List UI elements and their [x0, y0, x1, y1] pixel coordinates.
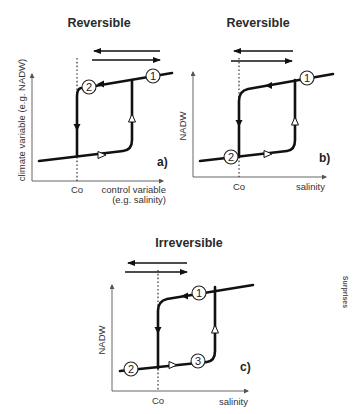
- hysteresis-diagram: Reversible 1 2 a) Co control variable (e…: [0, 0, 356, 414]
- state-2-label: 2: [128, 363, 134, 375]
- state-2-label: 2: [228, 151, 234, 163]
- panel-b-label: b): [319, 151, 330, 165]
- y-axis-label: NADW: [177, 111, 188, 140]
- panel-a: Reversible 1 2 a) Co control variable (e…: [16, 16, 172, 205]
- down-flow-marker-icon: [74, 124, 81, 131]
- panel-b-title: Reversible: [226, 16, 289, 30]
- right-flow-marker-icon: [264, 151, 272, 158]
- state-2-label: 2: [86, 81, 92, 93]
- down-flow-marker-icon: [236, 120, 243, 127]
- state-1-label: 1: [150, 70, 156, 82]
- upper-branch-and-collapse-curve: [158, 285, 253, 368]
- down-flow-marker-icon: [155, 327, 162, 334]
- panel-c: Irreversible 1 2 3 c) Co salinity NADW: [96, 236, 253, 407]
- y-axis-label: NADW: [96, 325, 107, 354]
- state-1-label: 1: [304, 72, 310, 84]
- left-flow-marker-icon: [181, 293, 188, 300]
- panel-c-title: Irreversible: [155, 236, 222, 250]
- state-1-label: 1: [196, 287, 202, 299]
- threshold-label: Co: [233, 181, 245, 192]
- x-axis-label: salinity: [296, 181, 325, 192]
- upper-branch-and-collapse-curve: [239, 74, 333, 157]
- collapse-curve: [77, 88, 81, 156]
- threshold-label: Co: [71, 184, 83, 195]
- lower-branch-curve: [200, 80, 295, 161]
- x-axis-label: salinity: [219, 396, 248, 407]
- up-flow-marker-icon: [212, 325, 219, 333]
- up-flow-marker-icon: [129, 114, 136, 122]
- panel-a-title: Reversible: [67, 16, 130, 30]
- threshold-label: Co: [152, 395, 164, 406]
- left-flow-marker-icon: [265, 82, 272, 89]
- state-3-label: 3: [195, 355, 201, 367]
- side-section-label: Surprises: [341, 276, 349, 308]
- y-axis-label: climate variable (e.g. NADW): [16, 59, 27, 181]
- panel-b: Reversible 1 2 b) Co salinity NADW: [177, 16, 333, 192]
- right-flow-marker-icon: [169, 362, 177, 369]
- panel-c-label: c): [240, 360, 251, 374]
- up-flow-marker-icon: [292, 117, 299, 125]
- x-axis-sublabel: (e.g. salinity): [112, 194, 166, 205]
- panel-a-label: a): [157, 155, 168, 169]
